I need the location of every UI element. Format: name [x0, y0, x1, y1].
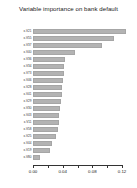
bar — [33, 113, 59, 118]
y-axis-tick-label: x.V25 — [24, 135, 32, 138]
bar — [33, 50, 75, 55]
bar-row — [33, 134, 56, 139]
y-axis-tick-label: x.V37 — [24, 44, 32, 47]
bar-row — [33, 29, 126, 34]
bar — [33, 85, 62, 90]
y-axis-tick-label: x.V21 — [24, 30, 32, 33]
y-axis-tick-label: x.V41 — [24, 93, 32, 96]
x-axis-tick — [122, 165, 123, 168]
x-axis-tick — [92, 165, 93, 168]
x-axis-tick-label: 0.04 — [58, 169, 67, 174]
bar-row — [33, 148, 50, 153]
y-axis-tick-label: x.V44 — [24, 142, 32, 145]
variable-importance-chart: Variable importance on bank default x.V2… — [0, 0, 137, 188]
bar-row — [33, 127, 58, 132]
bar-row — [33, 50, 75, 55]
bar-row — [33, 99, 61, 104]
y-axis-tick-label: x.V11 — [24, 121, 32, 124]
x-axis-tick — [63, 165, 64, 168]
y-axis-tick-label: x.V36 — [24, 58, 32, 61]
x-axis-tick — [48, 165, 49, 168]
x-axis-tick-label: 0.08 — [88, 169, 97, 174]
y-axis-tick-label: x.V29 — [24, 100, 32, 103]
bar-row — [33, 57, 65, 62]
y-axis-tick-label: x.V34 — [24, 65, 32, 68]
bar — [33, 141, 52, 146]
bar — [33, 99, 61, 104]
bar-row — [33, 92, 62, 97]
bar — [33, 106, 60, 111]
bar-row — [33, 64, 64, 69]
y-axis-tick-label: x.V28 — [24, 86, 32, 89]
bar — [33, 36, 114, 41]
y-axis-tick-label: x.V40 — [24, 51, 32, 54]
x-axis-tick-label: 0.12 — [118, 169, 127, 174]
bar — [33, 120, 59, 125]
bar — [33, 78, 63, 83]
bar-row — [33, 78, 63, 83]
bar-row — [33, 43, 102, 48]
chart-title: Variable importance on bank default — [0, 5, 137, 12]
x-axis-tick-label: 0.00 — [29, 169, 38, 174]
y-axis-tick-label: x.V43 — [24, 114, 32, 117]
x-axis-tick — [78, 165, 79, 168]
bar — [33, 127, 58, 132]
plot-area — [33, 28, 137, 161]
bar — [33, 71, 64, 76]
x-axis-tick — [33, 165, 34, 168]
bar — [33, 92, 62, 97]
bar-row — [33, 85, 62, 90]
y-axis-tick-label: x.V73 — [24, 72, 32, 75]
x-axis-tick — [107, 165, 108, 168]
y-axis-tick-label: x.V46 — [24, 79, 32, 82]
bar-row — [33, 36, 114, 41]
bar — [33, 29, 126, 34]
y-axis-tick-label: x.V55 — [24, 37, 32, 40]
y-axis-tick-label: x.V30 — [24, 107, 32, 110]
bar-row — [33, 71, 64, 76]
bar-row — [33, 120, 59, 125]
y-axis-tick-label: x.V19 — [24, 149, 32, 152]
bar — [33, 148, 50, 153]
bar — [33, 64, 64, 69]
bar-row — [33, 106, 60, 111]
bar — [33, 155, 40, 160]
bar-row — [33, 113, 59, 118]
bar — [33, 134, 56, 139]
y-axis-tick-label: x.V80 — [24, 156, 32, 159]
y-axis-tick-label: x.V58 — [24, 128, 32, 131]
bar — [33, 57, 65, 62]
bar-row — [33, 155, 40, 160]
bar-row — [33, 141, 52, 146]
bar — [33, 43, 102, 48]
